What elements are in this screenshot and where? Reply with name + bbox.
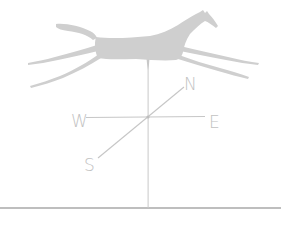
horse-silhouette [28,10,259,88]
compass-label-east: E [209,112,220,132]
compass-arms [86,87,205,158]
compass-label-west: W [71,111,88,131]
compass-label-north: N [184,74,197,94]
weathervane-pole [147,58,150,208]
compass-labels: N E S W [71,74,220,175]
compass-label-south: S [84,155,95,175]
weathervane-illustration: N E S W [0,0,283,228]
